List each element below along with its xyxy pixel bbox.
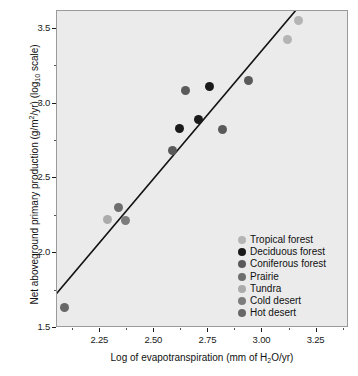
- x-axis-title: Log of evapotranspiration (mm of H2O/yr): [56, 352, 348, 364]
- legend-marker-icon: [238, 260, 246, 268]
- data-point: [121, 216, 130, 225]
- y-axis-title-text: Net aboveground primary production (g/m2…: [29, 44, 40, 304]
- legend-item[interactable]: Deciduous forest: [238, 246, 326, 258]
- legend-marker-icon: [238, 285, 246, 293]
- scatter-plot-figure: 1.52.02.53.03.52.252.502.753.003.25 Net …: [0, 0, 358, 376]
- legend-item[interactable]: Cold desert: [238, 295, 326, 307]
- regression-line: [0, 0, 358, 376]
- legend-label: Coniferous forest: [250, 259, 326, 269]
- x-axis-title-text: Log of evapotranspiration (mm of H2O/yr): [111, 352, 294, 363]
- legend: Tropical forestDeciduous forestConiferou…: [238, 234, 326, 319]
- legend-label: Deciduous forest: [250, 247, 325, 257]
- legend-item[interactable]: Prairie: [238, 271, 326, 283]
- legend-marker-icon: [238, 248, 246, 256]
- data-point: [205, 82, 214, 91]
- legend-marker-icon: [238, 309, 246, 317]
- legend-marker-icon: [238, 297, 246, 305]
- legend-marker-icon: [238, 273, 246, 281]
- data-point: [244, 76, 253, 85]
- data-point: [175, 124, 184, 133]
- legend-item[interactable]: Coniferous forest: [238, 258, 326, 270]
- y-axis-title: Net aboveground primary production (g/m2…: [28, 15, 41, 335]
- legend-marker-icon: [238, 236, 246, 244]
- legend-item[interactable]: Hot desert: [238, 307, 326, 319]
- legend-label: Prairie: [250, 272, 279, 282]
- data-point: [194, 115, 203, 124]
- data-point: [294, 16, 303, 25]
- legend-item[interactable]: Tropical forest: [238, 234, 326, 246]
- legend-label: Cold desert: [250, 296, 301, 306]
- legend-label: Hot desert: [250, 308, 296, 318]
- legend-label: Tundra: [250, 284, 281, 294]
- legend-item[interactable]: Tundra: [238, 283, 326, 295]
- legend-label: Tropical forest: [250, 235, 313, 245]
